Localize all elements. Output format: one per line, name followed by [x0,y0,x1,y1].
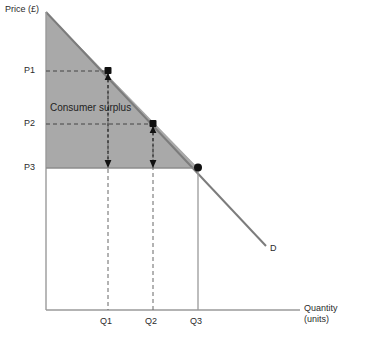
x-tick-label-q1: Q1 [100,316,112,327]
x-axis-title: Quantity (units) [304,303,338,325]
y-tick-label-p1: P1 [24,65,35,76]
x-tick-label-q3: Q3 [190,316,202,327]
y-axis-title: Price (£) [5,4,39,15]
chart-canvas [0,0,388,342]
point-p3-q3-marker [194,164,202,172]
x-axis-title-main: Quantity [304,303,338,314]
y-tick-label-p2: P2 [24,118,35,129]
demand-curve-label: D [270,243,277,254]
point-p1-q1-marker [105,67,112,74]
consumer-surplus-label: Consumer surplus [50,102,131,113]
x-axis-title-sub: (units) [304,314,338,325]
consumer-surplus-chart: Price (£) Quantity (units) P1 P2 P3 Q1 Q… [0,0,388,342]
y-tick-label-p3: P3 [24,162,35,173]
x-tick-label-q2: Q2 [145,316,157,327]
point-p2-q2-marker [150,120,157,127]
